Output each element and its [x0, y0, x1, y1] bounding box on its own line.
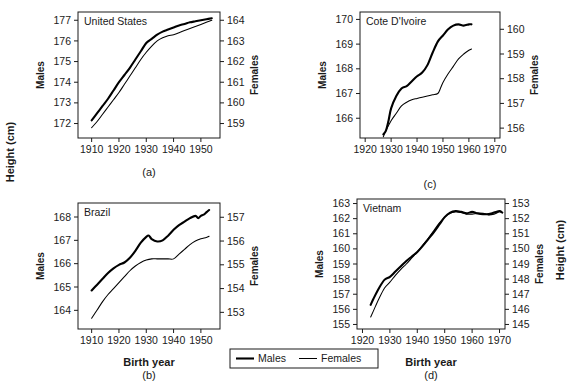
y-tick-label-right: 153	[227, 306, 245, 318]
x-tick-label: 1930	[135, 334, 159, 346]
y-tick-label-right: 146	[512, 303, 530, 315]
panel-title: Cote D'Ivoire	[366, 15, 427, 27]
panel-title: Brazil	[84, 206, 110, 218]
y-tick-label-right: 163	[227, 35, 245, 47]
y-tick-label-left: 175	[53, 55, 71, 67]
y-tick-label-left: 173	[53, 96, 71, 108]
plot-frame	[78, 203, 220, 329]
y-tick-label-left: 164	[53, 304, 71, 316]
y-tick-label-left: 162	[332, 212, 350, 224]
panel-title: United States	[84, 15, 147, 27]
y-tick-label-left: 160	[332, 242, 350, 254]
x-tick-label: 1940	[162, 143, 186, 155]
axis-label-females: Females	[529, 55, 540, 95]
axis-label-females: Females	[249, 55, 260, 95]
global-xlabel-left: Birth year	[123, 356, 175, 368]
x-tick-label: 1960	[457, 143, 481, 155]
y-tick-label-right: 158	[507, 72, 525, 84]
y-tick-label-left: 158	[332, 273, 350, 285]
x-tick-label: 1940	[406, 334, 430, 346]
x-tick-label: 1930	[378, 334, 402, 346]
series-line-females	[92, 20, 212, 127]
y-tick-label-right: 156	[507, 122, 525, 134]
y-tick-label-right: 157	[507, 97, 525, 109]
y-tick-label-right: 145	[512, 318, 530, 330]
y-tick-label-left: 170	[335, 13, 353, 25]
plot-frame	[360, 12, 500, 138]
axis-label-males: Males	[35, 252, 46, 280]
legend-label-males: Males	[258, 352, 286, 364]
panel-a: 1910192019301940195017217317417517617715…	[35, 12, 260, 178]
plot-frame	[357, 199, 505, 329]
y-tick-label-left: 166	[53, 257, 71, 269]
series-line-males	[383, 24, 471, 134]
x-tick-label: 1970	[483, 143, 507, 155]
series-line-females	[92, 236, 209, 318]
series-line-males	[371, 211, 503, 305]
y-tick-label-right: 155	[227, 258, 245, 270]
figure-svg: 1910192019301940195017217317417517617715…	[0, 0, 577, 386]
y-tick-label-left: 174	[53, 76, 71, 88]
legend-label-females: Females	[321, 352, 361, 364]
y-tick-label-left: 161	[332, 227, 350, 239]
y-tick-label-right: 154	[227, 282, 245, 294]
x-tick-label: 1920	[107, 143, 131, 155]
y-tick-label-left: 159	[332, 258, 350, 270]
axis-label-females: Females	[249, 246, 260, 286]
x-tick-label: 1920	[354, 143, 378, 155]
x-tick-label: 1950	[189, 143, 213, 155]
panel-caption: (c)	[424, 178, 437, 190]
x-tick-label: 1970	[488, 334, 512, 346]
y-tick-label-right: 157	[227, 211, 245, 223]
x-tick-label: 1960	[460, 334, 484, 346]
x-tick-label: 1940	[162, 334, 186, 346]
y-tick-label-right: 160	[227, 96, 245, 108]
series-line-females	[383, 49, 471, 137]
y-tick-label-left: 172	[53, 117, 71, 129]
y-tick-label-left: 169	[335, 38, 353, 50]
y-tick-label-right: 159	[227, 117, 245, 129]
x-tick-label: 1910	[80, 143, 104, 155]
y-tick-label-right: 160	[507, 23, 525, 35]
axis-label-males: Males	[314, 250, 325, 278]
y-tick-label-right: 159	[507, 48, 525, 60]
y-tick-label-right: 150	[512, 242, 530, 254]
panel-title: Vietnam	[363, 202, 402, 214]
y-tick-label-left: 167	[53, 234, 71, 246]
y-tick-label-right: 156	[227, 235, 245, 247]
x-tick-label: 1920	[351, 334, 375, 346]
y-tick-label-right: 151	[512, 227, 530, 239]
y-tick-label-left: 165	[53, 281, 71, 293]
y-tick-label-right: 153	[512, 197, 530, 209]
y-tick-label-left: 168	[335, 62, 353, 74]
panel-caption: (d)	[424, 369, 437, 381]
y-tick-label-left: 176	[53, 35, 71, 47]
axis-label-males: Males	[35, 61, 46, 89]
y-tick-label-left: 168	[53, 211, 71, 223]
y-tick-label-right: 148	[512, 273, 530, 285]
legend: MalesFemales	[230, 349, 378, 368]
x-tick-label: 1940	[405, 143, 429, 155]
y-tick-label-right: 162	[227, 55, 245, 67]
axis-label-males: Males	[317, 61, 328, 89]
axis-label-females: Females	[534, 244, 545, 284]
y-tick-label-left: 156	[332, 303, 350, 315]
global-ylabel-right: Height (cm)	[554, 219, 566, 280]
y-tick-label-left: 177	[53, 14, 71, 26]
series-line-females	[371, 212, 503, 317]
panel-caption: (a)	[142, 166, 155, 178]
series-line-males	[92, 210, 209, 291]
y-tick-label-left: 157	[332, 288, 350, 300]
x-tick-label: 1930	[379, 143, 403, 155]
y-tick-label-right: 152	[512, 212, 530, 224]
panel-c: 1920193019401950196019701661671681691701…	[317, 12, 540, 190]
y-tick-label-right: 164	[227, 14, 245, 26]
y-tick-label-left: 167	[335, 87, 353, 99]
panel-caption: (b)	[142, 369, 155, 381]
global-ylabel-left: Height (cm)	[4, 121, 16, 182]
x-tick-label: 1950	[433, 334, 457, 346]
panel-b: 1910192019301940195016416516616716815315…	[35, 203, 260, 381]
global-xlabel-right: Birth year	[405, 356, 457, 368]
figure-root: 1910192019301940195017217317417517617715…	[0, 0, 577, 386]
y-tick-label-left: 163	[332, 197, 350, 209]
